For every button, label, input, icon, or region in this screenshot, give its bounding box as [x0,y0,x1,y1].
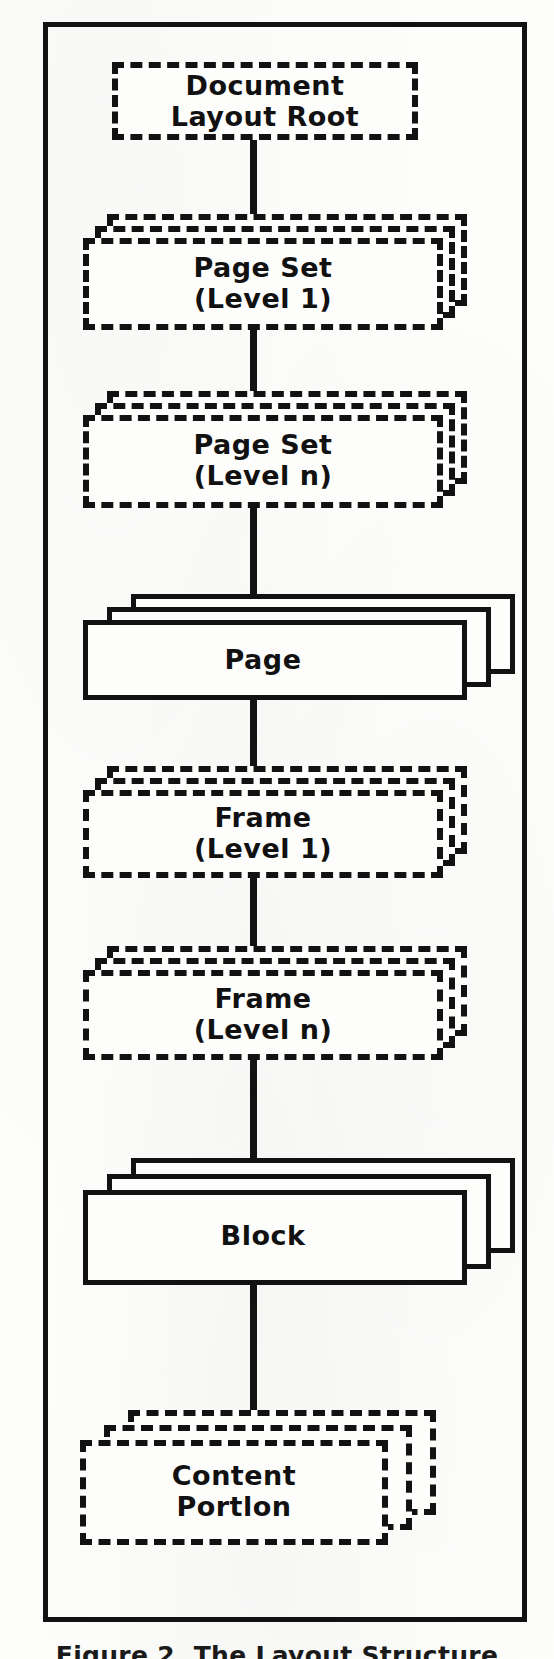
node-frame-level-n[interactable]: Frame (Level n) [83,970,443,1060]
node-box-front [83,1190,467,1285]
node-box-front [80,1440,388,1545]
node-document-layout-root[interactable]: Document Layout Root [112,62,418,140]
node-page[interactable]: Page [83,620,467,700]
node-content-portion[interactable]: Content Portlon [80,1440,388,1545]
node-box-front [83,415,443,508]
figure-caption: Figure 2. The Layout Structure [0,1641,554,1659]
node-block[interactable]: Block [83,1190,467,1285]
node-box-front [83,238,443,330]
node-frame-level-1[interactable]: Frame (Level 1) [83,790,443,878]
node-page-set-level-1[interactable]: Page Set (Level 1) [83,238,443,330]
node-box-front [112,62,418,140]
node-box-front [83,790,443,878]
node-page-set-level-n[interactable]: Page Set (Level n) [83,415,443,508]
figure-root: Document Layout Root Page Set (Level 1) … [0,0,554,1659]
node-box-front [83,620,467,700]
node-box-front [83,970,443,1060]
